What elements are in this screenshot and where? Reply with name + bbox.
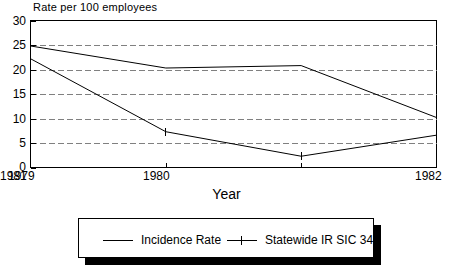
line-chart: Rate per 100 employees 30 25 20 15 10 5 …	[0, 0, 453, 270]
plot-area	[0, 0, 453, 200]
series-line-2	[31, 59, 437, 157]
legend-label: Statewide IR SIC 34	[265, 233, 373, 247]
legend-item-incidence-rate[interactable]: Incidence Rate	[103, 232, 221, 248]
legend-item-statewide-ir-sic-34[interactable]: Statewide IR SIC 34	[227, 232, 373, 248]
legend-line-swatch-icon	[103, 234, 133, 246]
legend-label: Incidence Rate	[141, 233, 221, 247]
series-line-1	[31, 46, 437, 118]
legend-line-marker-swatch-icon	[227, 234, 257, 246]
y-axis-ticks	[31, 22, 36, 169]
chart-legend[interactable]: Incidence Rate Statewide IR SIC 34	[78, 218, 374, 258]
x-axis-title: Year	[0, 186, 453, 202]
x-axis-ticks	[167, 163, 302, 168]
